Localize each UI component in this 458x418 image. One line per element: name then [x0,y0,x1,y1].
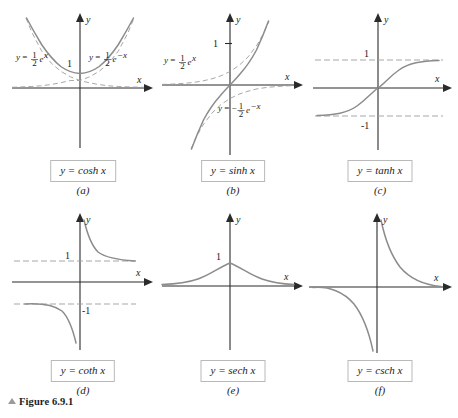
svg-text:y =: y = [15,52,27,62]
tick-label-c-neg1: -1 [361,120,369,131]
tick-label-a-1: 1 [67,58,72,69]
svg-text:2: 2 [105,58,110,68]
panel-letter-a: (a) [77,184,90,196]
x-axis-arrow-e [294,282,303,290]
equation-box-a: y = cosh x [50,160,116,182]
svg-text:y =: y = [88,52,100,62]
curve-coth-positive-d [84,220,135,261]
svg-text:2: 2 [32,58,37,68]
x-axis-label-b: x [284,71,290,82]
panel-letter-b: (b) [227,184,240,196]
svg-text:e: e [113,54,117,64]
annotation-b-half-exp-neg: y = − 1 2 e −x [217,101,261,120]
svg-text:e: e [40,54,44,64]
panel-letter-f: (f) [375,384,385,396]
equation-box-a-text: y = cosh x [60,164,106,176]
triangle-up-icon [8,398,16,404]
chart-d-svg: 1 -1 x y [8,210,158,358]
y-axis-label-d: y [85,214,91,225]
x-axis-label-d: x [135,267,141,278]
svg-text:y =: y = [163,55,175,65]
y-axis-label-b: y [235,14,241,25]
tick-label-d-1: 1 [65,250,70,261]
equation-box-e: y = sech x [201,360,266,382]
panel-c-tanh: 1 -1 x y y = tanh x (c) [305,10,455,200]
svg-text:−x: −x [117,50,127,60]
svg-text:2: 2 [180,61,185,71]
chart-a-svg: 1 x y y = 1 2 e x y = 1 2 [8,10,158,158]
curve-coth-negative-d [25,304,76,343]
x-axis-arrow-c [443,84,452,92]
plot-a-cosh: 1 x y y = 1 2 e x y = 1 2 [8,10,158,158]
annotation-a-half-exp-pos: y = 1 2 e x [15,50,48,69]
svg-text:y = −: y = − [217,103,237,113]
equation-box-c: y = tanh x [348,160,413,182]
equation-box-b-text: y = sinh x [211,164,255,176]
equation-box-f-text: y = csch x [358,364,403,376]
svg-text:e: e [188,57,192,67]
y-axis-arrow-d [76,213,84,222]
y-axis-label-e: y [235,214,241,225]
y-axis-arrow-f [373,213,381,222]
y-axis-arrow-c [374,13,382,22]
plot-f-csch: x y [305,210,455,358]
equation-box-d-text: y = coth x [61,364,105,376]
chart-f-svg: x y [305,210,455,358]
x-axis-label-e: x [283,271,289,282]
y-axis-label-a: y [85,14,91,25]
panel-e-sech: 1 x y y = sech x (e) [158,210,308,400]
plot-e-sech: 1 x y [158,210,308,358]
equation-box-f: y = csch x [348,360,413,382]
x-axis-arrow-d [144,278,153,286]
annotation-a-half-exp-neg: y = 1 2 e −x [88,50,127,69]
equation-box-e-text: y = sech x [211,364,256,376]
equation-box-c-text: y = tanh x [358,164,403,176]
tick-label-b-1: 1 [213,38,218,49]
equation-box-d: y = coth x [51,360,115,382]
figure-caption: Figure 6.9.1 [8,396,73,407]
equation-box-b: y = sinh x [201,160,265,182]
plot-b-sinh: 1 x y y = 1 2 e x y = − 1 2 e [158,10,308,158]
svg-text:−x: −x [251,101,261,111]
figure-caption-text: Figure 6.9.1 [19,396,73,407]
curve-csch-positive-f [381,220,441,287]
x-axis-arrow-f [443,283,452,291]
panel-letter-c: (c) [374,184,386,196]
panel-f-csch: x y y = csch x (f) [305,210,455,400]
curve-csch-negative-f [313,287,373,351]
panel-d-coth: 1 -1 x y y = coth x (d) [8,210,158,400]
y-axis-arrow-e [226,213,234,222]
annotation-b-half-exp-pos: y = 1 2 e x [163,53,196,72]
panel-b-sinh: 1 x y y = 1 2 e x y = − 1 2 e [158,10,308,200]
panel-letter-d: (d) [77,384,90,396]
plot-d-coth: 1 -1 x y [8,210,158,358]
svg-text:x: x [43,50,48,60]
tick-label-c-1: 1 [364,48,369,59]
x-axis-arrow-b [294,81,303,89]
tick-label-e-1: 1 [216,251,221,262]
x-axis-label-a: x [136,74,142,85]
svg-text:2: 2 [239,109,244,119]
chart-c-svg: 1 -1 x y [305,10,455,158]
x-axis-arrow-a [144,84,153,92]
panel-a-cosh: 1 x y y = 1 2 e x y = 1 2 [8,10,158,200]
y-axis-label-f: y [382,214,388,225]
panel-letter-e: (e) [227,384,239,396]
y-axis-arrow-a [76,13,84,22]
x-axis-label-c: x [434,73,440,84]
y-axis-arrow-b [226,13,234,22]
svg-text:e: e [246,105,250,115]
chart-e-svg: 1 x y [158,210,308,358]
chart-b-svg: 1 x y y = 1 2 e x y = − 1 2 e [158,10,308,158]
tick-label-d-neg1: -1 [82,305,90,316]
svg-text:x: x [191,53,196,63]
curve-half-exp-pos-b [162,21,269,84]
figure-6-9-1: 1 x y y = 1 2 e x y = 1 2 [0,0,458,418]
y-axis-label-c: y [383,14,389,25]
plot-c-tanh: 1 -1 x y [305,10,455,158]
x-axis-label-f: x [433,272,439,283]
curve-sech-e [162,263,294,285]
